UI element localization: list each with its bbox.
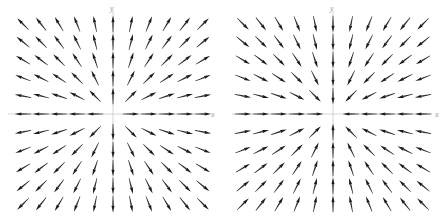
arrow-shaft [76, 178, 81, 187]
arrow-shaft [57, 129, 67, 133]
arrow-head-icon [379, 129, 386, 133]
arrow-shaft [367, 113, 377, 115]
arrow-head-icon [397, 112, 404, 115]
arrow-shaft [195, 113, 205, 115]
arrow-shaft [57, 22, 63, 31]
arrow-shaft [197, 198, 205, 206]
arrow-head-icon [187, 112, 194, 115]
arrow-shaft [307, 113, 317, 115]
arrow-shaft [94, 178, 97, 188]
arrow-head-icon [331, 98, 334, 105]
arrow-shaft [21, 163, 30, 169]
arrow-shaft [161, 162, 169, 170]
arrow-shaft [94, 58, 98, 68]
arrow-shaft [273, 166, 281, 174]
arrow-head-icon [314, 25, 317, 32]
arrow-shaft [127, 142, 132, 151]
arrow-head-icon [186, 131, 193, 134]
arrow-shaft [349, 130, 357, 138]
arrow-shaft [180, 197, 187, 205]
arrow-shaft [293, 184, 298, 193]
arrow-shaft [112, 40, 114, 50]
arrow-shaft [272, 148, 281, 154]
arrow-shaft [57, 40, 64, 49]
arrow-shaft [385, 148, 394, 154]
arrow-shaft [196, 163, 205, 169]
arrow-shaft [421, 75, 431, 80]
arrow-head-icon [262, 146, 269, 150]
arrow-shaft [312, 166, 316, 176]
arrow-shaft [350, 16, 353, 26]
y-axis-label: y [109, 4, 114, 13]
arrow-shaft [129, 22, 132, 32]
arrow-shaft [129, 196, 132, 206]
arrow-shaft [21, 181, 29, 188]
arrow-shaft [161, 58, 169, 66]
arrow-shaft [76, 196, 81, 206]
arrow-head-icon [51, 131, 58, 135]
arrow-shaft [367, 53, 373, 62]
arrow-shaft [253, 74, 262, 79]
arrow-shaft [39, 130, 49, 133]
arrow-shaft [385, 73, 394, 79]
arrow-shaft [57, 179, 64, 188]
arrow-shaft [129, 178, 132, 188]
arrow-shaft [237, 18, 245, 26]
arrow-shaft [421, 113, 431, 115]
arrow-head-icon [314, 143, 318, 150]
arrow-shaft [195, 77, 205, 82]
arrow-shaft [289, 131, 298, 136]
arrow-shaft [57, 197, 63, 206]
arrow-shaft [236, 184, 244, 191]
arrow-shaft [349, 113, 359, 115]
arrow-head-icon [33, 94, 40, 97]
arrow-shaft [253, 113, 263, 115]
arrow-head-icon [204, 131, 211, 134]
arrow-head-icon [348, 61, 352, 68]
arrow-head-icon [204, 94, 211, 97]
arrow-head-icon [317, 112, 324, 115]
arrow-shaft [178, 58, 187, 65]
arrow-head-icon [366, 25, 370, 32]
arrow-shaft [143, 144, 151, 152]
arrow-head-icon [111, 70, 114, 77]
arrow-shaft [123, 113, 133, 115]
arrow-shaft [292, 166, 298, 175]
arrow-head-icon [331, 178, 334, 185]
arrow-shaft [255, 36, 263, 44]
arrow-shaft [274, 202, 280, 211]
arrow-shaft [75, 128, 84, 133]
arrow-shaft [159, 95, 169, 99]
arrow-head-icon [169, 112, 176, 115]
arrow-shaft [421, 166, 430, 172]
arrow-shaft [421, 131, 431, 134]
arrow-head-icon [262, 77, 269, 81]
arrow-shaft [177, 95, 187, 98]
arrow-shaft [403, 131, 413, 134]
arrow-shaft [39, 40, 47, 48]
arrow-shaft [385, 184, 392, 193]
arrow-shaft [403, 184, 411, 192]
arrow-shaft [112, 94, 114, 104]
arrow-head-icon [91, 71, 95, 78]
arrow-shaft [75, 58, 81, 67]
arrow-shaft [39, 180, 47, 188]
arrow-head-icon [331, 62, 334, 69]
arrow-shaft [235, 113, 245, 115]
arrow-shaft [385, 35, 392, 44]
arrow-shaft [162, 179, 169, 188]
arrow-shaft [350, 166, 354, 176]
arrow-head-icon [298, 128, 305, 132]
arrow-head-icon [130, 205, 133, 212]
arrow-shaft [196, 181, 204, 188]
arrow-shaft [39, 146, 48, 151]
arrow-shaft [367, 166, 373, 175]
arrow-shaft [350, 202, 353, 212]
arrow-shaft [94, 196, 97, 206]
arrow-shaft [93, 126, 101, 134]
arrow-shaft [159, 129, 169, 133]
arrow-shaft [39, 197, 46, 205]
arrow-shaft [403, 113, 413, 115]
arrow-shaft [274, 35, 281, 44]
arrow-shaft [237, 202, 245, 210]
